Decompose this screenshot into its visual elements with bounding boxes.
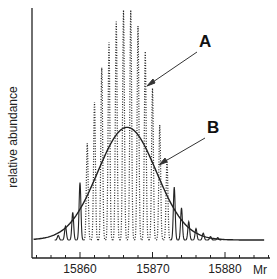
y-axis-label: relative abundance [6,72,20,202]
arrow-b [162,138,205,163]
axes [32,8,270,258]
x-tick-label-15870: 15870 [136,262,169,276]
annotation-arrows [147,52,205,165]
isotope-peak [76,183,83,240]
series-a-isotope-peaks [55,10,222,240]
isotope-peak [113,22,120,240]
annotation-label-a: A [199,32,211,52]
isotope-peak [134,26,141,240]
mass-spectrum-chart [0,0,277,279]
x-tick-label-15860: 15860 [63,262,96,276]
isotope-peak [127,10,134,240]
arrow-a [150,52,197,84]
arrow-a-head [147,79,155,86]
annotation-label-b: B [207,118,219,138]
series-b-envelope [34,127,265,240]
arrow-b-head [159,158,167,165]
x-axis-label: Mr [253,263,267,277]
isotope-peak [98,68,105,240]
isotope-peak [55,235,62,240]
isotope-peak [91,102,98,240]
isotope-peak [185,222,192,240]
x-axis-ticks [37,252,269,258]
x-tick-label-15880: 15880 [208,262,241,276]
isotope-peak [120,10,127,240]
isotope-peak [156,125,163,240]
